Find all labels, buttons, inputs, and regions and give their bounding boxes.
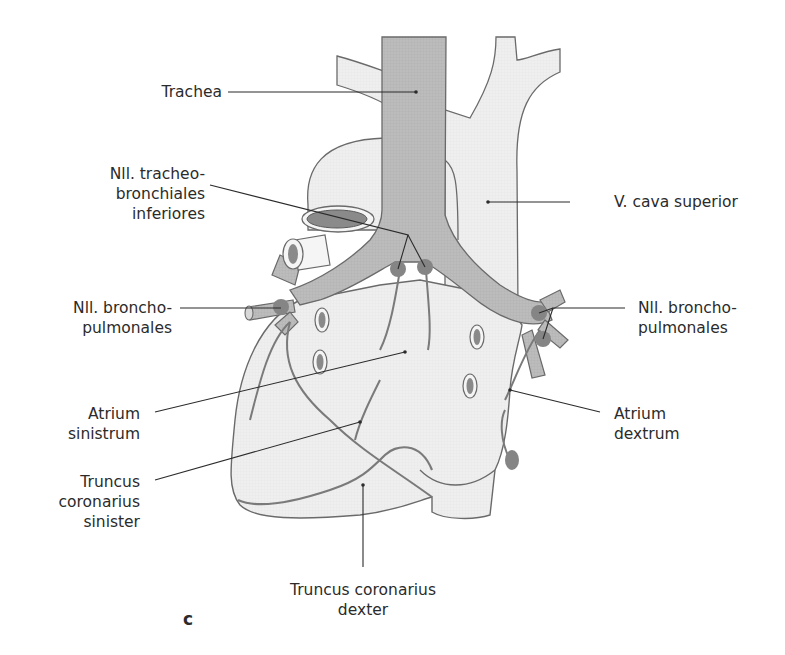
label-truncus-coronarius-sinister: Truncus coronarius sinister (40, 472, 140, 532)
label-nll-tracheobronchiales-inferiores: Nll. tracheo- bronchiales inferiores (40, 164, 205, 224)
panel-letter: c (183, 609, 193, 629)
label-trachea: Trachea (130, 82, 222, 102)
label-v-cava-superior: V. cava superior (614, 192, 738, 212)
label-atrium-dextrum: Atrium dextrum (614, 404, 680, 444)
label-nll-bronchopulmonales-left: Nll. broncho- pulmonales (40, 298, 172, 338)
label-nll-bronchopulmonales-right: Nll. broncho- pulmonales (638, 298, 737, 338)
lymphatic-drainage-heart-figure: Trachea Nll. tracheo- bronchiales inferi… (0, 0, 785, 655)
label-atrium-sinistrum: Atrium sinistrum (40, 404, 140, 444)
label-truncus-coronarius-dexter: Truncus coronarius dexter (263, 580, 463, 620)
